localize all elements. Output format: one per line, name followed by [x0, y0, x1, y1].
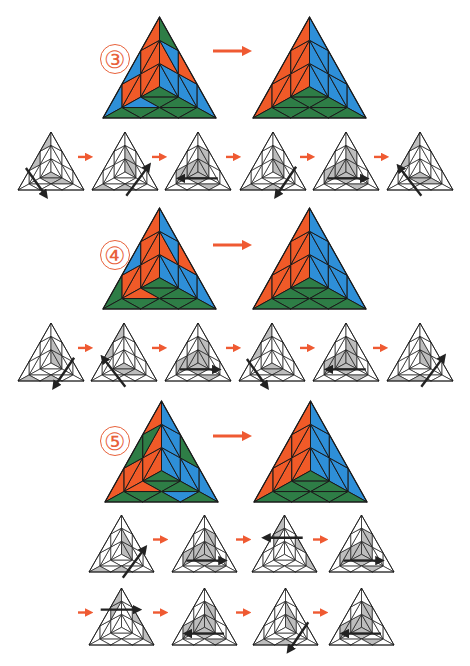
move-diagram [387, 323, 453, 387]
pyramid-after-step-4 [253, 208, 366, 309]
move-diagram [165, 323, 231, 381]
move-diagram [253, 588, 318, 651]
move-diagram [172, 515, 237, 572]
move-diagram [91, 323, 157, 387]
move-diagram [329, 588, 394, 645]
pyramid-after-step-3 [253, 17, 366, 118]
move-diagram [313, 132, 379, 190]
move-diagram [165, 132, 231, 190]
move-diagram [172, 588, 237, 645]
pyramid-after-step-5 [254, 401, 367, 502]
diagram-canvas [0, 0, 470, 666]
move-diagram [89, 515, 154, 578]
step-number-label: ③ [100, 44, 130, 74]
step-number-label: ⑤ [100, 426, 130, 456]
move-diagram [252, 515, 317, 572]
move-diagram [387, 132, 453, 196]
step-number-label: ④ [100, 240, 130, 270]
move-diagram [89, 588, 154, 645]
move-diagram [92, 132, 158, 196]
move-diagram [240, 132, 306, 196]
move-diagram [18, 132, 84, 196]
move-diagram [329, 515, 394, 572]
move-diagram [239, 323, 305, 387]
pyramid-solution-diagram: ③④⑤ [0, 0, 470, 666]
move-diagram [18, 323, 84, 387]
move-diagram [313, 323, 379, 381]
